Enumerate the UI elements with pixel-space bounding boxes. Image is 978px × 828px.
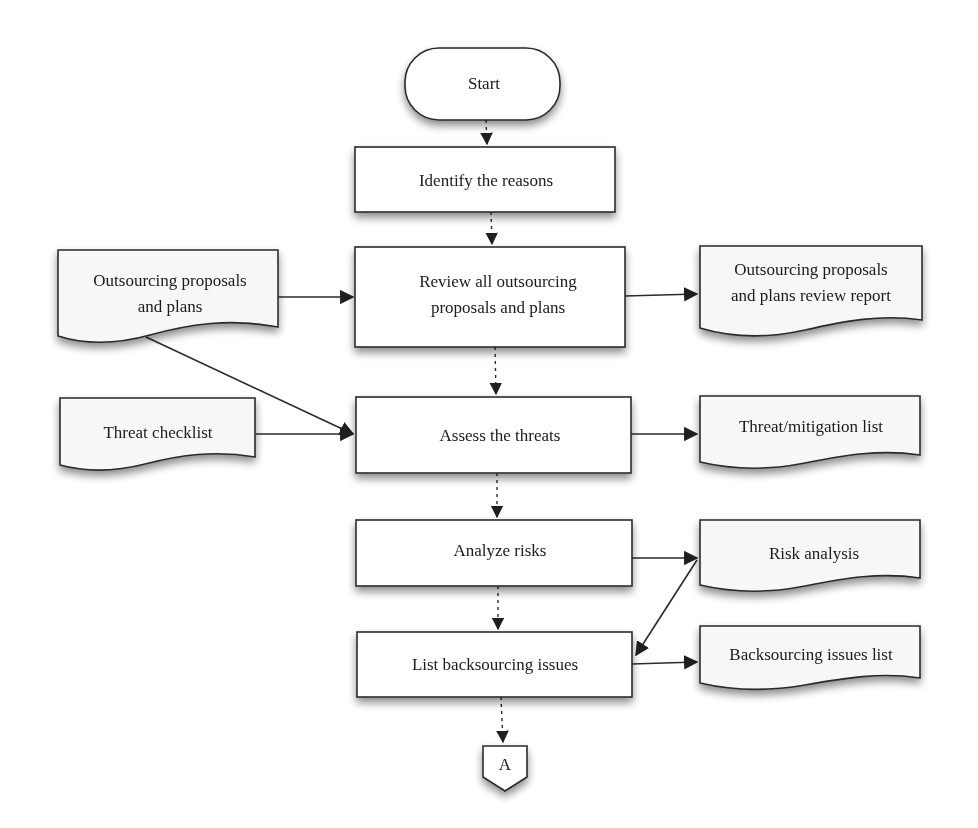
- doc-backsourcing-list: Backsourcing issues list: [700, 626, 920, 689]
- node-identify-label: Identify the reasons: [419, 171, 553, 190]
- process-shape: [355, 247, 625, 347]
- node-start: Start: [405, 48, 560, 120]
- doc-backsourcing-list-label: Backsourcing issues list: [729, 645, 893, 664]
- node-list: List backsourcing issues: [357, 632, 632, 697]
- node-analyze: Analyze risks: [356, 520, 632, 586]
- edge-list-connector-a: [501, 697, 503, 742]
- doc-proposals-in-label-line2: and plans: [138, 297, 203, 316]
- doc-threat-checklist-label: Threat checklist: [103, 423, 212, 442]
- node-review-label-line1: Review all outsourcing: [419, 272, 577, 291]
- doc-review-report: Outsourcing proposals and plans review r…: [700, 246, 922, 336]
- edge-identify-review: [491, 212, 492, 244]
- node-review-label-line2: proposals and plans: [431, 298, 565, 317]
- node-identify: Identify the reasons: [355, 147, 615, 212]
- doc-review-report-label-line2: and plans review report: [731, 286, 891, 305]
- edge-review-report: [625, 294, 697, 296]
- doc-proposals-in-label-line1: Outsourcing proposals: [93, 271, 246, 290]
- doc-review-report-label-line1: Outsourcing proposals: [734, 260, 887, 279]
- doc-threat-mitigation-label: Threat/mitigation list: [739, 417, 883, 436]
- node-list-label: List backsourcing issues: [412, 655, 578, 674]
- doc-proposals-in: Outsourcing proposals and plans: [58, 250, 278, 342]
- edge-review-assess: [495, 347, 496, 394]
- edge-risk-list: [636, 560, 697, 655]
- doc-risk-analysis: Risk analysis: [700, 520, 920, 591]
- doc-risk-analysis-label: Risk analysis: [769, 544, 859, 563]
- node-assess-label: Assess the threats: [440, 426, 561, 445]
- edge-start-identify: [486, 120, 487, 144]
- node-review: Review all outsourcing proposals and pla…: [355, 247, 625, 347]
- node-assess: Assess the threats: [356, 397, 631, 473]
- node-analyze-label: Analyze risks: [453, 541, 546, 560]
- doc-threat-checklist: Threat checklist: [60, 398, 255, 470]
- doc-threat-mitigation: Threat/mitigation list: [700, 396, 920, 468]
- edge-list-backsourcing: [632, 662, 697, 664]
- node-connector-a: A: [483, 746, 527, 791]
- flowchart-canvas: Start Identify the reasons Review all ou…: [0, 0, 978, 828]
- node-start-label: Start: [468, 74, 500, 93]
- node-connector-a-label: A: [499, 755, 512, 774]
